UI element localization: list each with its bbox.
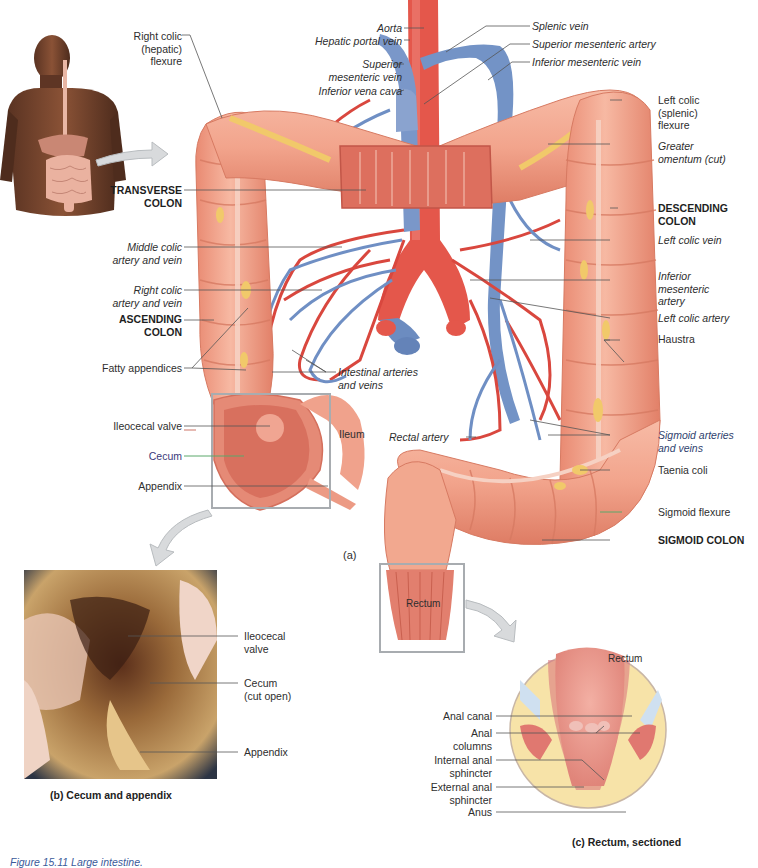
label-left-colic-vein: Left colic vein — [658, 234, 722, 247]
panel-b-caption: (b) Cecum and appendix — [50, 789, 172, 801]
label-middle-colic-artery-vein: Middle colic artery and vein — [100, 241, 182, 266]
label-appendix: Appendix — [80, 480, 182, 493]
label-b-appendix: Appendix — [244, 746, 288, 759]
label-rectal-artery: Rectal artery — [389, 431, 449, 444]
label-cecum: Cecum — [80, 450, 182, 463]
label-external-anal-sphincter: External anal sphincter — [400, 781, 492, 806]
label-descending-colon: DESCENDING COLON — [658, 202, 728, 227]
label-ileocecal-valve: Ileocecal valve — [80, 420, 182, 433]
label-inferior-mesenteric-artery: Inferior mesenteric artery — [658, 270, 709, 308]
label-b-ileocecal-valve: Ileocecal valve — [244, 630, 285, 655]
label-hepatic-portal-vein: Hepatic portal vein — [262, 35, 402, 48]
panel-c-caption: (c) Rectum, sectioned — [572, 836, 681, 848]
label-intestinal-arteries-veins: Intestinal arteries and veins — [338, 366, 418, 391]
label-anus: Anus — [400, 806, 492, 819]
label-left-colic-flexure: Left colic (splenic) flexure — [658, 94, 699, 132]
figure-caption: Figure 15.11 Large intestine. — [10, 856, 143, 868]
label-ascending-colon: ASCENDING COLON — [100, 313, 182, 338]
label-greater-omentum: Greater omentum (cut) — [658, 140, 726, 165]
label-sigmoid-flexure: Sigmoid flexure — [658, 506, 730, 519]
label-fatty-appendices: Fatty appendices — [80, 362, 182, 375]
label-b-cecum: Cecum (cut open) — [244, 677, 291, 702]
label-inferior-mesenteric-vein: Inferior mesenteric vein — [532, 56, 641, 69]
label-left-colic-artery: Left colic artery — [658, 312, 729, 325]
label-anal-columns: Anal columns — [400, 727, 492, 752]
label-anal-canal: Anal canal — [400, 710, 492, 723]
label-right-colic-flexure: Right colic (hepatic) flexure — [120, 30, 182, 68]
label-ileum: Ileum — [339, 428, 365, 441]
panel-a-tag: (a) — [343, 549, 356, 562]
label-taenia-coli: Taenia coli — [658, 464, 708, 477]
label-internal-anal-sphincter: Internal anal sphincter — [400, 754, 492, 779]
label-splenic-vein: Splenic vein — [532, 20, 589, 33]
label-inferior-vena-cava: Inferior vena cava — [262, 85, 402, 98]
label-sigmoid-arteries-veins: Sigmoid arteries and veins — [658, 429, 734, 454]
label-c-rectum: Rectum — [608, 653, 642, 666]
label-haustra: Haustra — [658, 333, 695, 346]
label-transverse-colon: TRANSVERSE COLON — [100, 184, 182, 209]
label-sigmoid-colon: SIGMOID COLON — [658, 534, 744, 547]
label-superior-mesenteric-vein: Superior mesenteric vein — [262, 58, 402, 83]
label-right-colic-artery-vein: Right colic artery and vein — [100, 284, 182, 309]
label-aorta: Aorta — [300, 22, 402, 35]
label-rectum-a: Rectum — [406, 598, 440, 611]
label-superior-mesenteric-artery: Superior mesenteric artery — [532, 38, 656, 51]
